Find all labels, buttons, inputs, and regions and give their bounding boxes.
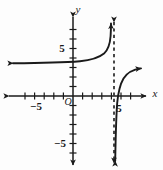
origin-label: O — [64, 96, 71, 107]
y-tick-label-5: 5 — [59, 42, 65, 54]
x-axis — [9, 93, 146, 100]
rational-function-graph: y x O −5 5 5 −5 — [0, 0, 163, 170]
y-axis — [70, 17, 77, 165]
y-axis-label: y — [75, 3, 81, 15]
x-tick-label-5: 5 — [116, 102, 122, 114]
y-tick-label-negative-5: −5 — [54, 137, 66, 149]
curve-right-branch — [115, 68, 141, 161]
x-tick-label-negative-5: −5 — [30, 100, 42, 112]
graph-canvas: y x O −5 5 5 −5 — [0, 0, 163, 170]
x-axis-label: x — [152, 87, 158, 99]
